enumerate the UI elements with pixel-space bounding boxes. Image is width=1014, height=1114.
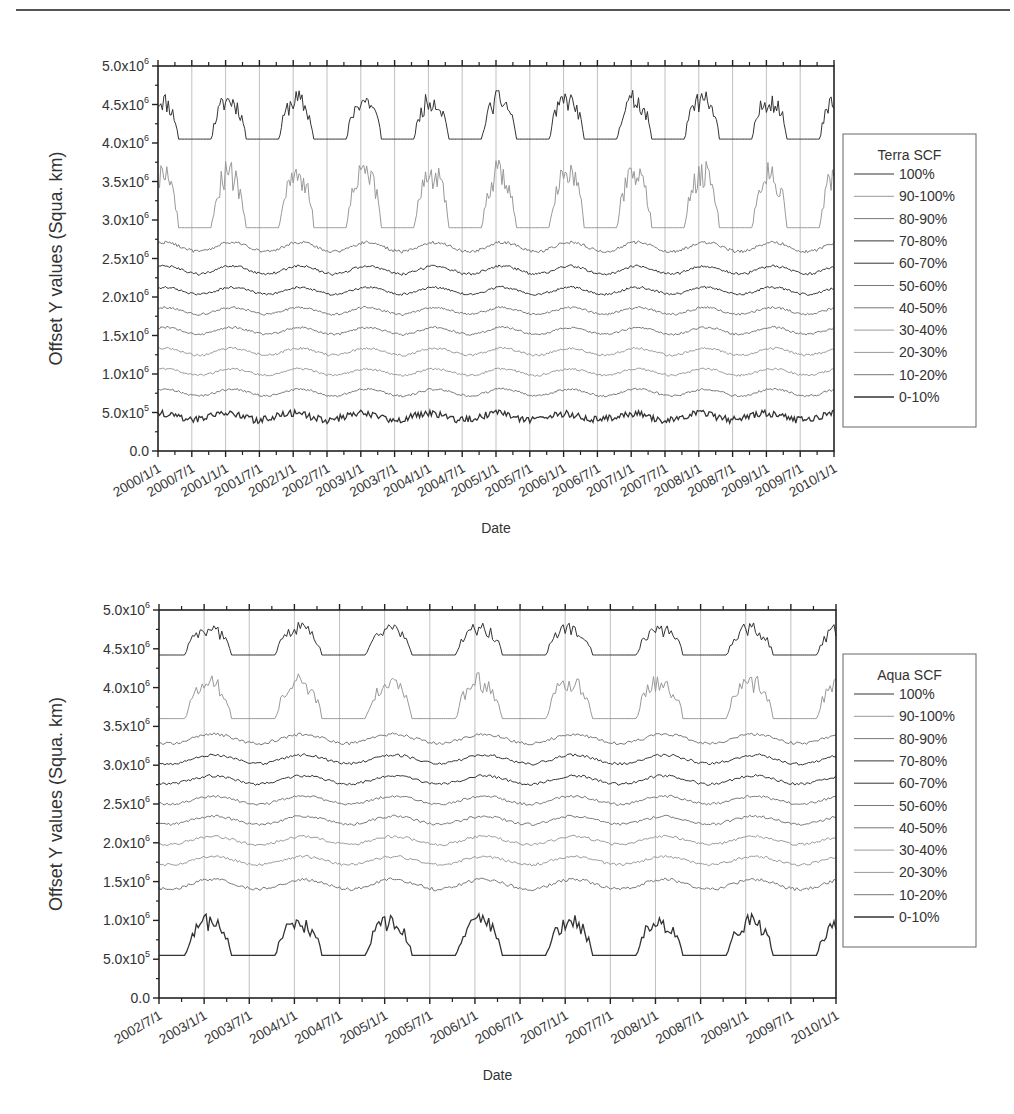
terra-chart: 0.05.0x1051.0x1061.5x1062.0x1062.5x1063.… <box>0 0 1014 544</box>
legend-item-label: 0-10% <box>899 389 939 405</box>
y-tick-label: 3.5x106 <box>102 172 149 190</box>
terra-chart-svg: 0.05.0x1051.0x1061.5x1062.0x1062.5x1063.… <box>0 0 1014 540</box>
legend-item-label: 70-80% <box>899 753 947 769</box>
legend-item-label: 70-80% <box>899 233 947 249</box>
y-tick-label: 0.0 <box>130 443 150 459</box>
x-axis-label: Date <box>483 1067 513 1083</box>
legend-item-label: 100% <box>899 166 935 182</box>
y-tick-label: 4.5x106 <box>102 95 149 113</box>
legend-item-label: 20-30% <box>899 344 947 360</box>
legend-item-label: 30-40% <box>899 322 947 338</box>
series-line-40-50pct <box>159 815 836 825</box>
y-tick-label: 5.0x106 <box>103 600 150 618</box>
series-line-50-60pct <box>159 795 836 805</box>
legend-item-label: 60-70% <box>899 775 947 791</box>
x-tick-label: 2010/1/1 <box>788 1008 841 1047</box>
legend-item-label: 90-100% <box>899 708 955 724</box>
y-tick-label: 1.0x106 <box>103 910 150 928</box>
y-tick-label: 1.5x106 <box>103 872 150 890</box>
x-tick-label: 2003/1/1 <box>157 1008 210 1047</box>
x-tick-label: 2004/7/1 <box>292 1008 345 1047</box>
series-line-0-10pct <box>159 914 836 955</box>
x-tick-label: 2002/7/1 <box>111 1008 164 1047</box>
y-tick-label: 5.0x105 <box>102 403 149 421</box>
legend-item-label: 100% <box>899 686 935 702</box>
x-tick-label: 2008/7/1 <box>653 1008 706 1047</box>
legend-item-label: 90-100% <box>899 188 955 204</box>
legend-title: Aqua SCF <box>877 667 942 683</box>
x-tick-label: 2006/1/1 <box>427 1008 480 1047</box>
x-tick-label: 2009/1/1 <box>698 1008 751 1047</box>
y-tick-label: 2.5x106 <box>102 249 149 267</box>
series-line-90-100pct <box>159 673 836 719</box>
y-tick-label: 4.0x106 <box>102 133 149 151</box>
x-tick-label: 2008/1/1 <box>608 1008 661 1047</box>
aqua-chart: 0.05.0x1051.0x1061.5x1062.0x1062.5x1063.… <box>0 545 1014 1114</box>
y-tick-label: 2.0x106 <box>103 833 150 851</box>
legend-item-label: 50-60% <box>899 278 947 294</box>
series-line-100pct <box>159 622 836 655</box>
series-line-10-20pct <box>159 878 836 891</box>
y-tick-label: 2.5x106 <box>103 794 150 812</box>
series-line-70-80pct <box>159 754 836 766</box>
y-tick-label: 3.0x106 <box>103 755 150 773</box>
y-tick-label: 3.0x106 <box>102 210 149 228</box>
legend-item-label: 80-90% <box>899 731 947 747</box>
series-line-80-90pct <box>159 733 836 745</box>
y-tick-label: 5.0x106 <box>102 56 149 74</box>
x-tick-label: 2004/1/1 <box>247 1008 300 1047</box>
x-tick-label: 2007/1/1 <box>518 1008 571 1047</box>
y-axis-label: Offset Y values (Squa. km) <box>46 151 66 365</box>
legend-item-label: 20-30% <box>899 864 947 880</box>
legend-item-label: 30-40% <box>899 842 947 858</box>
y-tick-label: 4.5x106 <box>103 639 150 657</box>
legend-item-label: 10-20% <box>899 887 947 903</box>
x-tick-label: 2003/7/1 <box>202 1008 255 1047</box>
legend-item-label: 40-50% <box>899 820 947 836</box>
x-tick-label: 2007/7/1 <box>563 1008 616 1047</box>
x-tick-label: 2006/7/1 <box>473 1008 526 1047</box>
x-tick-label: 2005/1/1 <box>337 1008 390 1047</box>
x-axis-label: Date <box>481 520 511 536</box>
series-line-20-30pct <box>159 855 836 866</box>
y-tick-label: 1.0x106 <box>102 364 149 382</box>
y-tick-label: 4.0x106 <box>103 678 150 696</box>
series-line-30-40pct <box>159 835 836 846</box>
y-axis-label: Offset Y values (Squa. km) <box>46 697 66 911</box>
legend-title: Terra SCF <box>878 147 942 163</box>
legend-item-label: 40-50% <box>899 300 947 316</box>
y-tick-label: 1.5x106 <box>102 326 149 344</box>
y-tick-label: 0.0 <box>131 990 151 1006</box>
legend-item-label: 50-60% <box>899 798 947 814</box>
legend-item-label: 0-10% <box>899 909 939 925</box>
legend-item-label: 80-90% <box>899 211 947 227</box>
y-tick-label: 2.0x106 <box>102 287 149 305</box>
y-tick-label: 3.5x106 <box>103 716 150 734</box>
legend-item-label: 60-70% <box>899 255 947 271</box>
legend-item-label: 10-20% <box>899 367 947 383</box>
y-tick-label: 5.0x105 <box>103 949 150 967</box>
series-line-60-70pct <box>159 775 836 786</box>
x-tick-label: 2009/7/1 <box>743 1008 796 1047</box>
x-tick-label: 2005/7/1 <box>382 1008 435 1047</box>
aqua-chart-svg: 0.05.0x1051.0x1061.5x1062.0x1062.5x1063.… <box>0 545 1014 1114</box>
